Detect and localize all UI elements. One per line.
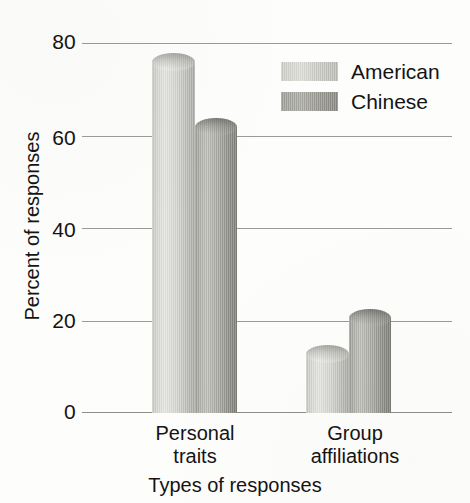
- bar-cap-shadow: [152, 53, 195, 71]
- bar-american-personal-traits: [152, 53, 195, 413]
- category-label-line1: Personal: [156, 422, 235, 444]
- y-axis-title: Percent of responses: [21, 111, 43, 341]
- bar-body: [349, 318, 391, 413]
- category-label-line2: traits: [130, 445, 260, 468]
- gridline-60: [82, 136, 452, 137]
- legend-swatch-chinese-icon: [281, 92, 338, 111]
- legend: American Chinese: [281, 56, 440, 116]
- y-tick-80: 80: [32, 31, 76, 52]
- bar-chinese-personal-traits: [195, 118, 237, 413]
- bar-cap-shadow: [349, 309, 391, 327]
- category-label-group-affiliations: Group affiliations: [285, 422, 425, 468]
- bar-chinese-group-affiliations: [349, 309, 391, 413]
- x-axis-title: Types of responses: [0, 474, 470, 496]
- legend-swatch-american-icon: [281, 62, 338, 81]
- gridline-20: [82, 321, 452, 322]
- bar-body: [195, 127, 237, 413]
- chart-figure: 80 60 40 20 0: [0, 0, 470, 503]
- category-label-line2: affiliations: [285, 445, 425, 468]
- legend-entry-american: American: [281, 56, 440, 86]
- bar-cap-shadow: [195, 118, 237, 136]
- gridline-40: [82, 228, 452, 229]
- legend-label-chinese: Chinese: [351, 91, 428, 112]
- category-label-personal-traits: Personal traits: [130, 422, 260, 468]
- gridline-80: [82, 43, 452, 44]
- bar-body: [152, 62, 195, 413]
- legend-entry-chinese: Chinese: [281, 86, 440, 116]
- gridline-baseline-0: [82, 412, 452, 413]
- legend-label-american: American: [351, 61, 440, 82]
- bar-american-group-affiliations: [306, 345, 349, 413]
- bar-cap-shadow: [306, 345, 349, 363]
- category-label-line1: Group: [327, 422, 383, 444]
- y-tick-0: 0: [32, 401, 76, 422]
